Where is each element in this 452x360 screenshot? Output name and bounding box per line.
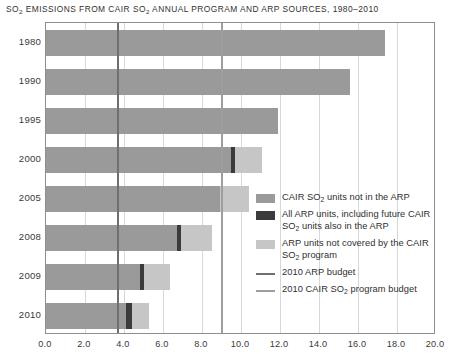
- chart-title-sub-1: 2: [19, 8, 23, 15]
- bar-row-1980: [46, 30, 435, 56]
- y-tick-label-2005: 2005: [1, 192, 41, 203]
- legend-label-3: 2010 ARP budget: [282, 267, 355, 278]
- legend-label-2: ARP units not covered by the CAIR SO2 pr…: [282, 238, 446, 261]
- chart-title: SO2 EMISSIONS FROM CAIR SO2 ANNUAL PROGR…: [6, 4, 379, 14]
- x-tick-label-16.0: 16.0: [337, 339, 377, 349]
- x-tick-label-0.0: 0.0: [25, 339, 65, 349]
- legend-label-subscript-2: 2: [296, 254, 300, 261]
- legend-label-subscript-4: 2: [344, 288, 348, 295]
- y-tick-label-1990: 1990: [1, 75, 41, 86]
- bar-segment-1995-cair_not_in_arp: [46, 108, 278, 134]
- x-tick-label-14.0: 14.0: [298, 339, 338, 349]
- legend-label-0: CAIR SO2 units not in the ARP: [282, 192, 410, 203]
- legend-label-subscript-1: 2: [296, 225, 300, 232]
- legend-label-4: 2010 CAIR SO2 program budget: [282, 284, 417, 295]
- x-tick-label-12.0: 12.0: [259, 339, 299, 349]
- bar-segment-2010-cair_not_in_arp: [46, 303, 126, 329]
- legend-swatch-arp_not_covered: [256, 240, 275, 249]
- chart-legend: CAIR SO2 units not in the ARPAll ARP uni…: [256, 192, 446, 302]
- x-tick-label-6.0: 6.0: [142, 339, 182, 349]
- legend-item-0: CAIR SO2 units not in the ARP: [256, 192, 446, 203]
- bar-segment-2008-cair_not_in_arp: [46, 225, 177, 251]
- legend-item-4: 2010 CAIR SO2 program budget: [256, 284, 446, 295]
- bar-segment-2010-arp_not_covered: [132, 303, 150, 329]
- y-axis: 19801990199520002005200820092010: [0, 22, 41, 334]
- chart-title-mid: EMISSIONS FROM CAIR SO: [23, 4, 146, 14]
- bar-segment-2000-arp_not_covered: [235, 147, 262, 173]
- reference-line-cair_budget_line: [221, 23, 223, 333]
- bar-segment-2008-arp_not_covered: [181, 225, 212, 251]
- legend-item-2: ARP units not covered by the CAIR SO2 pr…: [256, 238, 446, 261]
- y-tick-label-2009: 2009: [1, 270, 41, 281]
- bar-segment-2000-cair_not_in_arp: [46, 147, 231, 173]
- legend-swatch-cair_not_in_arp: [256, 194, 275, 203]
- bar-row-1990: [46, 69, 435, 95]
- legend-item-3: 2010 ARP budget: [256, 267, 446, 278]
- y-tick-label-2008: 2008: [1, 231, 41, 242]
- bar-segment-2005-cair_not_in_arp: [46, 186, 220, 212]
- legend-swatch-all_arp_units: [256, 211, 275, 220]
- chart-container: SO2 EMISSIONS FROM CAIR SO2 ANNUAL PROGR…: [0, 0, 452, 360]
- x-tick-label-10.0: 10.0: [220, 339, 260, 349]
- x-tick-label-2.0: 2.0: [64, 339, 104, 349]
- bar-segment-1990-cair_not_in_arp: [46, 69, 350, 95]
- chart-title-end: ANNUAL PROGRAM AND ARP SOURCES, 1980–201…: [150, 4, 379, 14]
- bar-segment-2009-cair_not_in_arp: [46, 264, 140, 290]
- legend-item-1: All ARP units, including future CAIR SO2…: [256, 209, 446, 232]
- chart-title-sub-2: 2: [146, 8, 150, 15]
- y-tick-label-2000: 2000: [1, 153, 41, 164]
- x-axis: 0.02.04.06.08.010.012.014.016.018.020.0: [45, 336, 435, 356]
- bar-row-2000: [46, 147, 435, 173]
- y-tick-label-1995: 1995: [1, 114, 41, 125]
- y-tick-label-1980: 1980: [1, 36, 41, 47]
- legend-label-1: All ARP units, including future CAIR SO2…: [282, 209, 446, 232]
- chart-title-so2-pre: SO: [6, 4, 19, 14]
- x-tick-label-4.0: 4.0: [103, 339, 143, 349]
- bar-row-1995: [46, 108, 435, 134]
- x-tick-label-8.0: 8.0: [181, 339, 221, 349]
- bar-segment-1980-cair_not_in_arp: [46, 30, 385, 56]
- bar-segment-2009-arp_not_covered: [144, 264, 169, 290]
- legend-line-swatch-arp_budget_line: [256, 269, 275, 278]
- x-tick-label-18.0: 18.0: [376, 339, 416, 349]
- y-tick-label-2010: 2010: [1, 309, 41, 320]
- x-tick-label-20.0: 20.0: [415, 339, 452, 349]
- reference-line-arp_budget_line: [117, 23, 119, 333]
- legend-line-swatch-cair_budget_line: [256, 286, 275, 295]
- bar-segment-2005-arp_not_covered: [220, 186, 249, 212]
- bar-row-2010: [46, 303, 435, 329]
- legend-label-subscript-0: 2: [321, 196, 325, 203]
